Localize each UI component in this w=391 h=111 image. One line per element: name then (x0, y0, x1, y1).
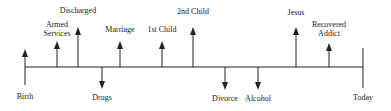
second-child-label: 2nd Child (177, 7, 209, 16)
marriage-label: Marriage (105, 25, 134, 34)
divorce-label: Divorce (212, 94, 238, 103)
birth-label: Birth (17, 92, 33, 101)
today-label: Today (353, 93, 373, 102)
first-child-label: 1st Child (147, 25, 176, 34)
discharged-label: Discharged (60, 6, 96, 15)
arrow-up-icon (54, 41, 60, 49)
life-timeline-diagram: BirthArmed ServicesDischargedDrugsMarria… (0, 0, 391, 111)
armed-services-label: Armed Services (43, 20, 70, 38)
drugs-label: Drugs (92, 93, 112, 102)
recovered-addict-label: Recovered Addict (312, 20, 346, 38)
timeline-graphic (0, 0, 391, 111)
arrow-up-icon (159, 41, 165, 49)
arrow-up-icon (117, 41, 123, 49)
arrow-up-icon (22, 49, 28, 57)
arrow-down-icon (99, 81, 105, 89)
arrow-down-icon (255, 82, 261, 90)
arrow-up-icon (293, 27, 299, 35)
arrow-down-icon (222, 82, 228, 90)
arrow-up-icon (75, 27, 81, 35)
arrow-up-icon (190, 27, 196, 35)
arrow-up-icon (326, 43, 332, 51)
alcohol-label: Alcohol (245, 94, 271, 103)
jesus-label: Jesus (288, 8, 305, 17)
